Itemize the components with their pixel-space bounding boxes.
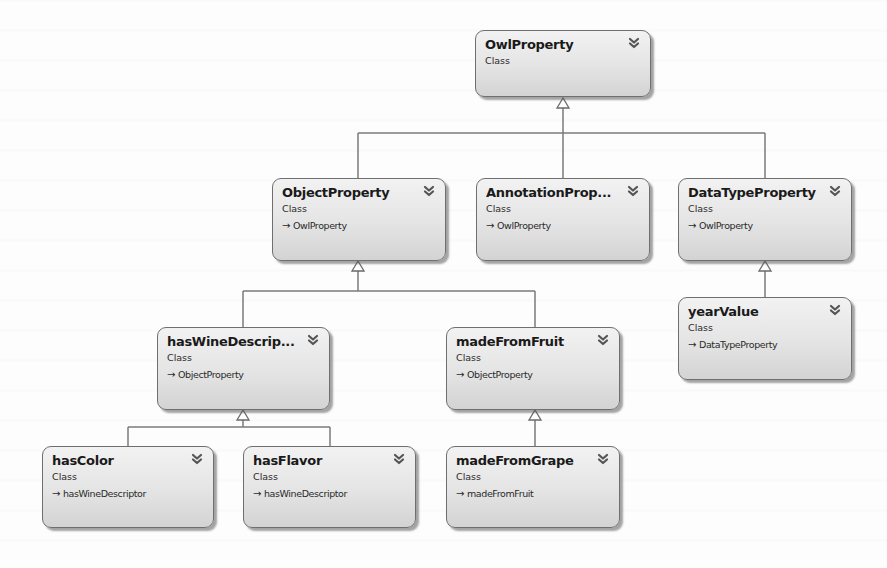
class-name: ObjectProperty: [282, 185, 416, 200]
double-chevron-down-icon[interactable]: [596, 452, 610, 466]
double-chevron-down-icon[interactable]: [828, 184, 842, 198]
class-stereotype: Class: [688, 203, 713, 214]
double-chevron-down-icon[interactable]: [828, 303, 842, 317]
class-stereotype: Class: [485, 55, 510, 66]
base-class-name: ObjectProperty: [178, 369, 244, 380]
base-class-name: madeFromFruit: [467, 488, 533, 499]
inherits-arrow-icon: →: [253, 488, 261, 499]
class-name: OwlProperty: [485, 37, 619, 52]
inherits-arrow-icon: →: [456, 369, 464, 380]
class-stereotype: Class: [486, 203, 511, 214]
class-stereotype: Class: [167, 352, 192, 363]
class-node-hasflavor[interactable]: hasFlavor Class →hasWineDescriptor: [243, 446, 416, 528]
base-class-name: OwlProperty: [293, 220, 347, 231]
class-name: DataTypeProperty: [688, 185, 822, 200]
generalization-arrowhead-icon: [352, 261, 364, 271]
class-stereotype: Class: [282, 203, 307, 214]
class-node-madefromgrape[interactable]: madeFromGrape Class →madeFromFruit: [446, 446, 620, 528]
class-name: hasFlavor: [253, 453, 387, 468]
double-chevron-down-icon[interactable]: [190, 452, 204, 466]
class-name: AnnotationProp...: [486, 185, 620, 200]
base-class-name: ObjectProperty: [467, 369, 533, 380]
double-chevron-down-icon[interactable]: [596, 333, 610, 347]
class-stereotype: Class: [688, 322, 713, 333]
class-name: hasWineDescrip...: [167, 334, 301, 349]
double-chevron-down-icon[interactable]: [306, 333, 320, 347]
class-stereotype: Class: [456, 471, 481, 482]
class-name: hasColor: [52, 453, 186, 468]
base-class-reference: →madeFromFruit: [456, 488, 533, 499]
generalization-arrowhead-icon: [529, 410, 541, 420]
class-node-annotationproperty[interactable]: AnnotationProp... Class →OwlProperty: [476, 178, 650, 261]
base-class-name: hasWineDescriptor: [63, 488, 146, 499]
inherits-arrow-icon: →: [486, 220, 494, 231]
double-chevron-down-icon[interactable]: [626, 184, 640, 198]
inherits-arrow-icon: →: [456, 488, 464, 499]
class-stereotype: Class: [456, 352, 481, 363]
class-node-objectproperty[interactable]: ObjectProperty Class →OwlProperty: [272, 178, 446, 261]
class-stereotype: Class: [253, 471, 278, 482]
class-node-owlproperty[interactable]: OwlProperty Class: [475, 30, 651, 97]
class-name: yearValue: [688, 304, 822, 319]
diagram-canvas: OwlProperty Class ObjectProperty Class →…: [0, 0, 887, 568]
class-node-yearvalue[interactable]: yearValue Class →DataTypeProperty: [678, 297, 852, 380]
class-name: madeFromGrape: [456, 453, 590, 468]
base-class-reference: →OwlProperty: [282, 220, 347, 231]
base-class-reference: →hasWineDescriptor: [253, 488, 347, 499]
inherits-arrow-icon: →: [52, 488, 60, 499]
class-node-hascolor[interactable]: hasColor Class →hasWineDescriptor: [42, 446, 214, 528]
inherits-arrow-icon: →: [688, 220, 696, 231]
inherits-arrow-icon: →: [167, 369, 175, 380]
base-class-reference: →OwlProperty: [688, 220, 753, 231]
generalization-arrowhead-icon: [557, 98, 569, 108]
base-class-name: DataTypeProperty: [699, 339, 777, 350]
base-class-name: OwlProperty: [699, 220, 753, 231]
double-chevron-down-icon[interactable]: [627, 36, 641, 50]
double-chevron-down-icon[interactable]: [392, 452, 406, 466]
inherits-arrow-icon: →: [688, 339, 696, 350]
class-node-datatypeproperty[interactable]: DataTypeProperty Class →OwlProperty: [678, 178, 852, 261]
inherits-arrow-icon: →: [282, 220, 290, 231]
generalization-arrowhead-icon: [237, 410, 249, 420]
class-stereotype: Class: [52, 471, 77, 482]
class-node-haswinedescriptor[interactable]: hasWineDescrip... Class →ObjectProperty: [157, 327, 330, 410]
base-class-name: OwlProperty: [497, 220, 551, 231]
generalization-arrowhead-icon: [759, 261, 771, 271]
base-class-reference: →ObjectProperty: [456, 369, 533, 380]
base-class-name: hasWineDescriptor: [264, 488, 347, 499]
class-node-madefromfruit[interactable]: madeFromFruit Class →ObjectProperty: [446, 327, 620, 410]
class-name: madeFromFruit: [456, 334, 590, 349]
base-class-reference: →ObjectProperty: [167, 369, 244, 380]
double-chevron-down-icon[interactable]: [422, 184, 436, 198]
base-class-reference: →hasWineDescriptor: [52, 488, 146, 499]
base-class-reference: →OwlProperty: [486, 220, 551, 231]
base-class-reference: →DataTypeProperty: [688, 339, 777, 350]
